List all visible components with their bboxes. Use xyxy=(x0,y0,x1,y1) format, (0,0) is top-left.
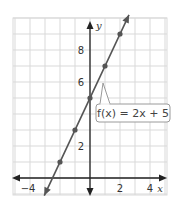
function-graph: −424268xy f(x) = 2x + 5 xyxy=(0,0,180,205)
x-tick-label: −4 xyxy=(21,183,36,194)
y-axis-label: y xyxy=(95,20,102,31)
data-point xyxy=(102,63,107,68)
data-point xyxy=(57,159,62,164)
x-tick-label: 4 xyxy=(147,183,153,194)
data-point xyxy=(117,31,122,36)
x-tick-label: 2 xyxy=(117,183,123,194)
data-point xyxy=(87,95,92,100)
y-tick-label: 8 xyxy=(78,45,84,56)
function-label: f(x) = 2x + 5 xyxy=(97,107,169,120)
x-axis-label: x xyxy=(157,183,163,194)
y-tick-label: 2 xyxy=(78,141,84,152)
y-tick-label: 6 xyxy=(78,77,84,88)
data-point xyxy=(72,127,77,132)
